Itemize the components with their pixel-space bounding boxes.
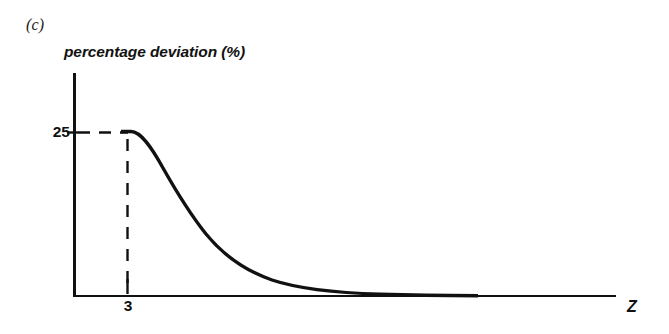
figure-panel-c: (c) percentage deviation (%) 25 3 Z [0, 0, 669, 334]
y-axis-title: percentage deviation (%) [64, 43, 245, 61]
y-axis-tick-label-25: 25 [42, 123, 70, 141]
panel-label: (c) [26, 16, 44, 34]
x-axis-title: Z [627, 298, 637, 316]
x-axis-tick-label-3: 3 [114, 297, 142, 315]
data-curve-percentage-deviation [121, 132, 478, 296]
